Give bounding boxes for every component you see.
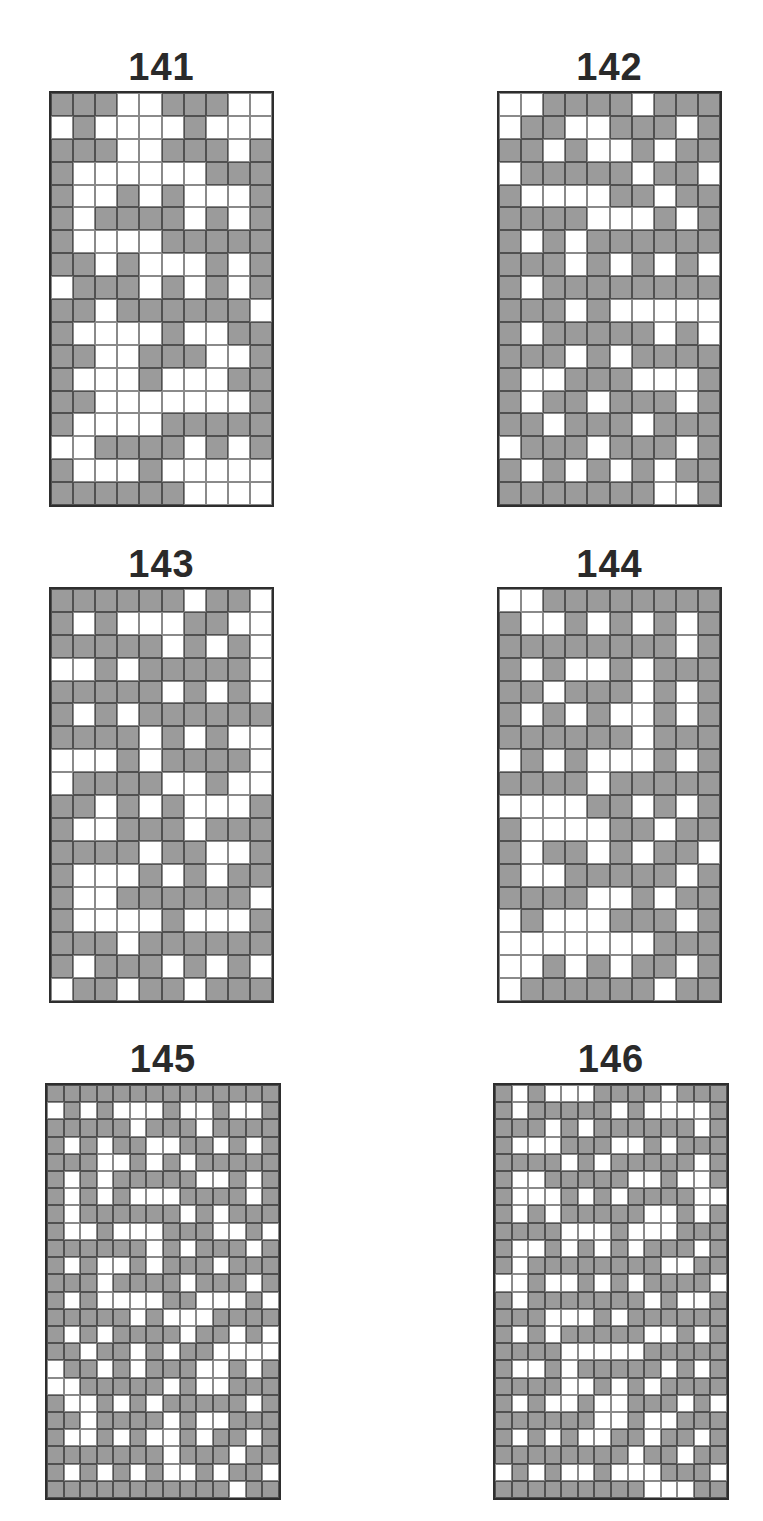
empty-cell [694,1326,711,1343]
filled-cell [543,703,565,726]
filled-cell [594,1326,611,1343]
filled-cell [146,1274,163,1291]
filled-cell [139,436,161,459]
empty-cell [528,1464,545,1481]
filled-cell [213,1102,230,1119]
filled-cell [228,589,250,612]
filled-cell [47,1395,64,1412]
empty-cell [499,909,521,932]
empty-cell [676,795,698,818]
filled-cell [117,726,139,749]
filled-cell [611,1119,628,1136]
empty-cell [163,1412,180,1429]
filled-cell [512,1378,529,1395]
filled-cell [499,635,521,658]
filled-cell [206,93,228,116]
empty-cell [130,1119,147,1136]
filled-cell [139,207,161,230]
empty-cell [73,658,95,681]
filled-cell [228,368,250,391]
filled-cell [206,887,228,910]
filled-cell [528,1481,545,1498]
filled-cell [611,1360,628,1377]
empty-cell [229,1446,246,1463]
empty-cell [51,978,73,1001]
filled-cell [565,635,587,658]
filled-cell [578,1154,595,1171]
empty-cell [146,1223,163,1240]
empty-cell [130,1464,147,1481]
empty-cell [676,391,698,414]
empty-cell [250,482,272,505]
filled-cell [611,1205,628,1222]
filled-cell [206,932,228,955]
empty-cell [73,955,95,978]
empty-cell [162,162,184,185]
empty-cell [213,1343,230,1360]
empty-cell [611,1412,628,1429]
filled-cell [698,345,720,368]
filled-cell [610,482,632,505]
empty-cell [628,1223,645,1240]
filled-cell [184,658,206,681]
empty-cell [710,1188,727,1205]
filled-cell [163,1360,180,1377]
empty-cell [80,1412,97,1429]
filled-cell [543,726,565,749]
empty-cell [632,612,654,635]
filled-cell [654,345,676,368]
filled-cell [163,1223,180,1240]
empty-cell [213,1257,230,1274]
filled-cell [698,207,720,230]
filled-cell [117,887,139,910]
filled-cell [73,93,95,116]
empty-cell [545,1326,562,1343]
empty-cell [117,322,139,345]
filled-cell [97,1343,114,1360]
filled-cell [495,1309,512,1326]
empty-cell [95,322,117,345]
filled-cell [499,887,521,910]
empty-cell [180,1154,197,1171]
filled-cell [543,635,565,658]
empty-cell [694,1360,711,1377]
filled-cell [611,1274,628,1291]
filled-cell [228,887,250,910]
filled-cell [644,1137,661,1154]
empty-cell [676,909,698,932]
empty-cell [543,413,565,436]
filled-cell [162,230,184,253]
empty-cell [95,413,117,436]
empty-cell [180,1102,197,1119]
filled-cell [565,978,587,1001]
filled-cell [499,772,521,795]
filled-cell [611,1292,628,1309]
filled-cell [710,1378,727,1395]
filled-cell [654,635,676,658]
filled-cell [698,681,720,704]
empty-cell [73,909,95,932]
empty-cell [196,1171,213,1188]
filled-cell [528,1412,545,1429]
filled-cell [130,1446,147,1463]
filled-cell [95,703,117,726]
empty-cell [698,841,720,864]
filled-cell [262,1188,279,1205]
empty-cell [206,482,228,505]
filled-cell [499,391,521,414]
filled-cell [229,1464,246,1481]
empty-cell [184,459,206,482]
filled-cell [594,1481,611,1498]
filled-cell [632,978,654,1001]
empty-cell [196,1309,213,1326]
empty-cell [180,1464,197,1481]
filled-cell [654,658,676,681]
empty-cell [117,139,139,162]
filled-cell [196,1257,213,1274]
filled-cell [80,1205,97,1222]
filled-cell [698,230,720,253]
filled-cell [565,749,587,772]
filled-cell [130,1395,147,1412]
filled-cell [95,436,117,459]
filled-cell [139,887,161,910]
